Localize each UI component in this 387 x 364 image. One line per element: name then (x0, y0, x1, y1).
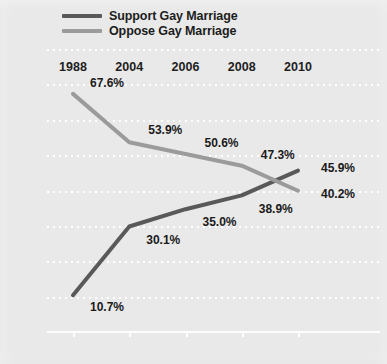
data-point-label: 67.6% (90, 76, 124, 90)
data-point-label: 47.3% (261, 148, 295, 162)
data-point-label: 45.9% (321, 161, 355, 175)
data-point-label: 53.9% (148, 123, 182, 137)
data-point-label: 10.7% (90, 300, 124, 314)
data-point-label: 38.9% (259, 202, 293, 216)
line-chart: Support Gay Marriage Oppose Gay Marriage… (0, 0, 387, 364)
data-point-label: 50.6% (204, 136, 238, 150)
plot-area: 0%10%20%30%40%50%60%70%80% 1988200420062… (47, 50, 380, 333)
series-line (73, 94, 298, 191)
legend-swatch-oppose (62, 29, 102, 33)
legend-item-oppose: Oppose Gay Marriage (62, 23, 312, 38)
data-point-label: 35.0% (202, 215, 236, 229)
legend-swatch-support (62, 14, 102, 18)
data-point-label: 30.1% (146, 233, 180, 247)
legend-label-oppose: Oppose Gay Marriage (109, 24, 236, 38)
data-point-label: 40.2% (321, 187, 355, 201)
legend-item-support: Support Gay Marriage (62, 8, 312, 23)
chart-legend: Support Gay Marriage Oppose Gay Marriage (62, 8, 312, 38)
legend-label-support: Support Gay Marriage (109, 9, 238, 23)
series-line (73, 171, 298, 296)
